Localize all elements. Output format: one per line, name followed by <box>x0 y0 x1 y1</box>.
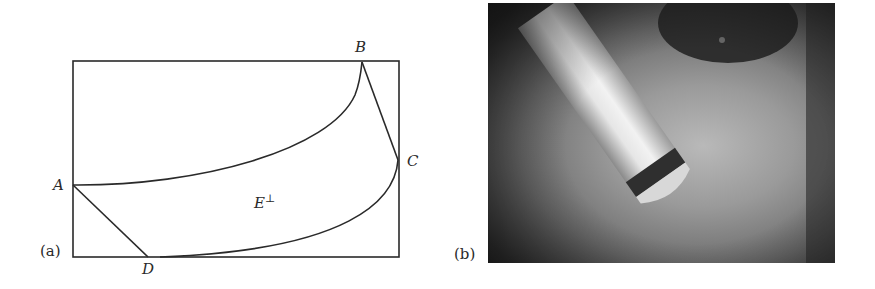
point-label-c: C <box>407 154 418 169</box>
photo-vignette <box>488 3 835 263</box>
point-label-a: A <box>53 178 64 193</box>
line-b-to-c <box>362 62 398 160</box>
panel-b-label: (b) <box>454 247 475 262</box>
diagram-drawing <box>0 0 440 289</box>
region-label-e-perp: E⊥ <box>254 193 275 211</box>
panel-a-diagram: A B C D E⊥ (a) <box>0 0 440 289</box>
point-label-d: D <box>142 262 154 277</box>
region-label-e: E <box>254 194 265 212</box>
line-a-to-d <box>73 185 148 257</box>
bounding-rectangle <box>73 61 399 257</box>
point-label-b: B <box>355 40 366 55</box>
panel-a-label: (a) <box>40 244 61 259</box>
curve-a-to-b <box>73 62 362 185</box>
perp-superscript: ⊥ <box>265 192 275 205</box>
probe-photograph <box>488 3 835 263</box>
photo-rendering <box>488 3 835 263</box>
